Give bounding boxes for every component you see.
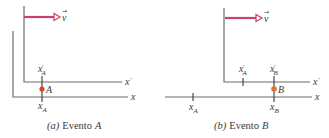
tick-label-x-a: xA — [37, 100, 47, 114]
frame-s-prime-axes: x′ — [224, 8, 320, 87]
caption-a: (a)EventoA — [47, 120, 102, 132]
event-a-label: A — [45, 84, 53, 95]
relativity-event-diagram: x x′ v → x′A xA A (a)EventoA x — [0, 0, 329, 138]
x-prime-axis-label: x′ — [312, 76, 320, 87]
tick-label-x-a: xA — [188, 101, 198, 115]
event-b-dot — [271, 86, 277, 92]
tick-label-x-prime-a: x′A — [238, 63, 247, 77]
event-b-label: B — [278, 84, 284, 95]
tick-label-x-b: xB — [269, 101, 279, 115]
s-axis — [13, 31, 128, 97]
tick-label-x-prime-a: x′A — [37, 63, 46, 77]
tick-label-x-prime-b: x′B — [269, 63, 278, 77]
event-a-dot — [39, 86, 44, 91]
velocity-arrow-icon: v → — [24, 7, 67, 23]
x-prime-axis-label: x′ — [124, 76, 132, 87]
panel-b: x x′ v → xA x′A x′B xB B (b)EventoB — [165, 8, 320, 132]
frame-s-axes: x — [13, 31, 136, 102]
caption-b: (b)EventoB — [214, 120, 269, 132]
panel-a: x x′ v → x′A xA A (a)EventoA — [13, 6, 136, 132]
frame-s-prime-axes: x′ — [24, 6, 132, 87]
x-axis-label: x — [130, 91, 136, 102]
vector-arrow-glyph: → — [62, 7, 67, 14]
vector-arrow-glyph: → — [264, 8, 269, 15]
velocity-arrow-icon: v → — [225, 8, 269, 24]
x-axis-label: x — [314, 91, 320, 102]
